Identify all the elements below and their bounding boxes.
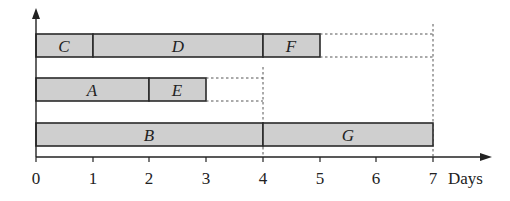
tick-label: 0 xyxy=(32,169,41,188)
y-axis-arrow-icon xyxy=(32,8,40,19)
gantt-chart: C D F A E B G 0 1 2 3 4 5 xyxy=(0,0,510,201)
task-label-c: C xyxy=(58,37,70,56)
x-ticks xyxy=(36,157,433,162)
tick-label: 3 xyxy=(202,169,211,188)
tick-label: 1 xyxy=(89,169,98,188)
tick-label: 2 xyxy=(145,169,154,188)
tick-label: 5 xyxy=(316,169,325,188)
tick-label: 7 xyxy=(429,169,438,188)
task-label-b: B xyxy=(144,126,155,145)
row-3: B G xyxy=(36,123,433,146)
row-2: A E xyxy=(36,78,263,101)
x-axis-arrow-icon xyxy=(480,153,492,161)
x-tick-labels: 0 1 2 3 4 5 6 7 Days xyxy=(32,169,483,188)
x-axis-unit-label: Days xyxy=(448,169,483,188)
tick-label: 4 xyxy=(259,169,268,188)
task-label-f: F xyxy=(285,37,297,56)
task-label-d: D xyxy=(171,37,185,56)
task-label-a: A xyxy=(86,81,98,100)
task-label-g: G xyxy=(342,126,354,145)
task-label-e: E xyxy=(171,81,183,100)
tick-label: 6 xyxy=(372,169,381,188)
row-1: C D F xyxy=(36,34,433,57)
